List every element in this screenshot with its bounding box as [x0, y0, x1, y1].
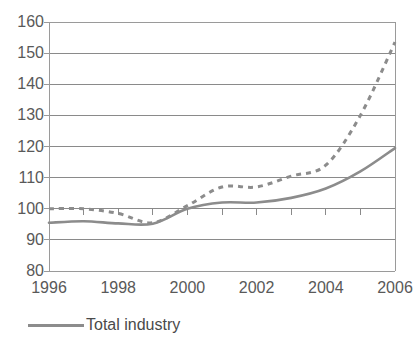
y-axis-tick-label: 140 — [4, 76, 44, 92]
data-series-group — [49, 42, 395, 225]
gridlines — [49, 53, 395, 271]
x-axis-tick-label: 1996 — [19, 279, 79, 297]
x-axis-tick-label: 1998 — [88, 279, 148, 297]
y-axis-tick-label: 90 — [4, 232, 44, 248]
x-axis-tick-label: 2002 — [227, 279, 287, 297]
y-axis-tick-label: 120 — [4, 139, 44, 155]
legend-label-total-industry: Total industry — [86, 316, 180, 334]
y-axis-tick-label: 150 — [4, 45, 44, 61]
y-axis-tick-label: 80 — [4, 263, 44, 279]
y-axis-tick-label: 130 — [4, 107, 44, 123]
y-axis-tick-label: 100 — [4, 201, 44, 217]
x-axis: 199619982000200220042006 — [0, 279, 412, 303]
legend-swatch-total-industry — [28, 324, 84, 327]
legend: Total industry — [28, 313, 180, 337]
x-axis-tick-label: 2004 — [296, 279, 356, 297]
series-line-unlabeled-1 — [49, 42, 395, 223]
x-axis-tick-label: 2006 — [365, 279, 417, 297]
x-axis-tick-label: 2000 — [157, 279, 217, 297]
y-axis-tick-label: 110 — [4, 170, 44, 186]
y-axis-tick-label: 160 — [4, 14, 44, 30]
